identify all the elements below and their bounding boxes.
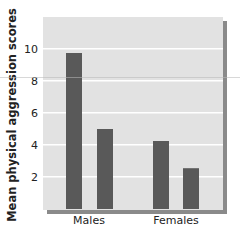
bar-chart: 246810 MalesFemales Mean physical aggres… (0, 0, 240, 237)
y-tick-label: 4 (31, 139, 38, 152)
x-category-label: Females (153, 214, 199, 227)
scan-line (0, 77, 240, 78)
bar (153, 141, 169, 209)
y-tick-label: 2 (31, 171, 38, 184)
bar (183, 168, 199, 209)
y-tick-label: 6 (31, 107, 38, 120)
y-tick-label: 10 (24, 43, 38, 56)
x-category-label: Males (73, 214, 105, 227)
x-category-labels: MalesFemales (73, 214, 199, 227)
y-axis-label: Mean physical aggression scores (5, 8, 19, 222)
bar (97, 129, 113, 209)
gridline (43, 48, 223, 50)
y-tick-labels: 246810 (24, 43, 38, 184)
